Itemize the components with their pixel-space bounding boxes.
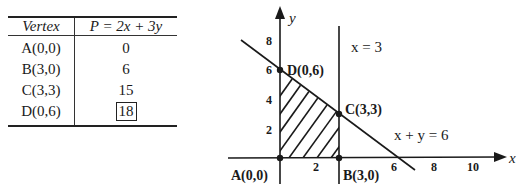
x-axis-label: x <box>508 150 516 166</box>
hatch-pattern <box>270 40 385 162</box>
point-d <box>277 67 283 73</box>
y-tick-6: 6 <box>266 63 272 77</box>
x-tick-8: 8 <box>431 160 437 174</box>
label-c: C(3,3) <box>345 102 382 118</box>
point-a <box>277 155 283 161</box>
point-c <box>336 111 342 117</box>
x-tick-2: 2 <box>313 160 319 174</box>
feasible-region-graph: y x 8 6 4 2 2 6 8 10 D(0,6) C(3,3) A(0,0… <box>0 0 532 195</box>
label-a: A(0,0) <box>231 168 268 184</box>
x-axis <box>228 157 500 158</box>
equation-x-equals-3: x = 3 <box>351 39 382 55</box>
point-b <box>336 155 342 161</box>
y-axis-label: y <box>287 10 296 26</box>
x-tick-10: 10 <box>467 160 479 174</box>
y-tick-2: 2 <box>266 123 272 137</box>
y-tick-8: 8 <box>266 34 272 48</box>
label-b: B(3,0) <box>343 168 380 184</box>
x-tick-6: 6 <box>391 160 397 174</box>
x-axis-arrow-icon <box>494 152 507 162</box>
label-d: D(0,6) <box>287 63 324 79</box>
y-axis-arrow-icon <box>275 6 285 19</box>
equation-x-plus-y-equals-6: x + y = 6 <box>394 127 449 143</box>
y-tick-4: 4 <box>266 93 272 107</box>
